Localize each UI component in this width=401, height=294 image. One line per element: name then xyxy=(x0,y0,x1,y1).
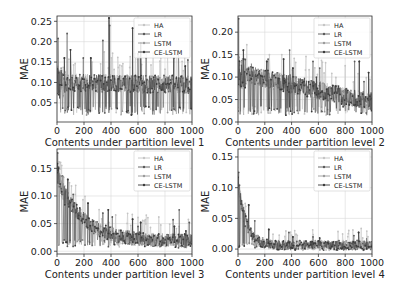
y-tick-label: 0.20 xyxy=(212,26,233,37)
legend-label: HA xyxy=(334,22,344,30)
y-axis-label: MAE xyxy=(200,58,211,80)
y-tick-label: 0.05 xyxy=(212,213,233,224)
x-tick-label: 1000 xyxy=(360,257,384,268)
y-tick-label: 0.00 xyxy=(212,243,233,254)
legend-label: HA xyxy=(154,155,164,163)
y-tick-label: 0.20 xyxy=(31,36,52,47)
x-axis-label: Contents under partition level 3 xyxy=(45,269,205,280)
legend-label: LR xyxy=(334,31,343,39)
x-tick-label: 1000 xyxy=(180,257,204,268)
legend-label: CE-LSTM xyxy=(334,182,362,190)
y-tick-label: 0.10 xyxy=(212,71,233,82)
subplot-4: 020040060080010000.000.050.100.15Content… xyxy=(200,149,385,280)
legend: HALRLSTMCE-LSTM xyxy=(314,151,370,191)
y-axis-label: MAE xyxy=(200,191,211,213)
x-tick-label: 1000 xyxy=(180,125,204,136)
x-tick-label: 1000 xyxy=(360,125,384,136)
y-axis-label: MAE xyxy=(19,58,30,80)
legend: HALRLSTMCE-LSTM xyxy=(314,18,370,58)
y-tick-label: 0.15 xyxy=(212,151,233,162)
x-tick-label: 400 xyxy=(283,125,301,136)
legend-label: LSTM xyxy=(154,40,171,48)
legend-label: HA xyxy=(154,22,164,30)
legend-label: CE-LSTM xyxy=(154,49,182,57)
x-tick-label: 200 xyxy=(75,125,93,136)
legend-label: CE-LSTM xyxy=(154,182,182,190)
x-tick-label: 800 xyxy=(156,257,174,268)
legend-label: CE-LSTM xyxy=(334,49,362,57)
x-axis-label: Contents under partition level 1 xyxy=(45,137,205,148)
x-tick-label: 200 xyxy=(75,257,93,268)
x-tick-label: 0 xyxy=(235,257,241,268)
x-tick-label: 400 xyxy=(102,125,120,136)
y-tick-label: 0.00 xyxy=(31,246,52,257)
x-tick-label: 800 xyxy=(156,125,174,136)
subplot-3: 020040060080010000.000.050.100.15Content… xyxy=(19,149,204,280)
legend-label: LR xyxy=(334,164,343,172)
y-tick-label: 0.15 xyxy=(212,49,233,60)
x-tick-label: 400 xyxy=(102,257,120,268)
x-tick-label: 600 xyxy=(129,125,147,136)
x-tick-label: 400 xyxy=(283,257,301,268)
legend-label: LR xyxy=(154,31,163,39)
y-axis-label: MAE xyxy=(19,191,30,213)
figure: 020040060080010000.050.100.150.200.25Con… xyxy=(0,0,401,294)
legend-label: LSTM xyxy=(154,173,171,181)
y-tick-label: 0.00 xyxy=(212,116,233,127)
legend-label: HA xyxy=(334,155,344,163)
x-tick-label: 600 xyxy=(309,257,327,268)
y-tick-label: 0.10 xyxy=(31,77,52,88)
x-tick-label: 200 xyxy=(256,257,274,268)
y-tick-label: 0.25 xyxy=(31,16,52,27)
y-tick-label: 0.10 xyxy=(212,182,233,193)
x-tick-label: 200 xyxy=(256,125,274,136)
subplot-2: 020040060080010000.000.050.100.150.20Con… xyxy=(200,16,385,148)
x-tick-label: 800 xyxy=(336,125,354,136)
x-tick-label: 0 xyxy=(54,125,60,136)
x-tick-label: 0 xyxy=(54,257,60,268)
x-tick-label: 600 xyxy=(309,125,327,136)
x-tick-label: 600 xyxy=(129,257,147,268)
y-tick-label: 0.05 xyxy=(31,97,52,108)
y-tick-label: 0.10 xyxy=(31,190,52,201)
y-tick-label: 0.05 xyxy=(212,94,233,105)
x-tick-label: 0 xyxy=(235,125,241,136)
legend: HALRLSTMCE-LSTM xyxy=(134,18,190,58)
y-tick-label: 0.05 xyxy=(31,218,52,229)
x-axis-label: Contents under partition level 4 xyxy=(225,269,385,280)
subplot-1: 020040060080010000.050.100.150.200.25Con… xyxy=(19,16,204,148)
y-tick-label: 0.15 xyxy=(31,56,52,67)
legend-label: LSTM xyxy=(334,40,351,48)
x-tick-label: 800 xyxy=(336,257,354,268)
y-tick-label: 0.15 xyxy=(31,163,52,174)
x-axis-label: Contents under partition level 2 xyxy=(225,137,385,148)
legend-label: LR xyxy=(154,164,163,172)
legend: HALRLSTMCE-LSTM xyxy=(134,151,190,191)
legend-label: LSTM xyxy=(334,173,351,181)
